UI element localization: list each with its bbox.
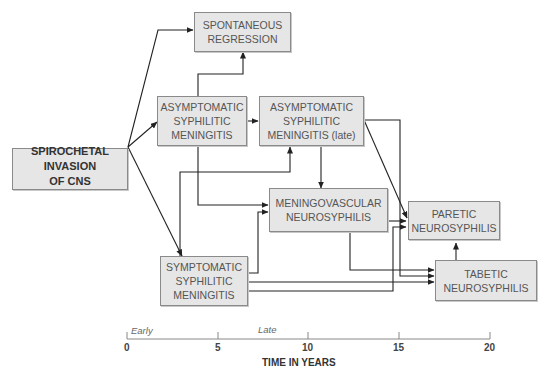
node-spirochetal-invasion: SPIROCHETAL INVASION OF CNS xyxy=(12,148,128,190)
node-paretic-neurosyphilis: PARETIC NEUROSYPHILIS xyxy=(408,201,500,240)
phase-late-label: Late xyxy=(258,324,277,335)
tick-label-5: 5 xyxy=(215,342,221,353)
node-meningovascular-neurosyphilis: MENINGOVASCULAR NEUROSYPHILIS xyxy=(269,188,388,232)
tick-label-10: 10 xyxy=(302,342,313,353)
tick-label-15: 15 xyxy=(393,342,404,353)
node-label: ASYMPTOMATIC SYPHILITIC MENINGITIS (late… xyxy=(267,100,355,142)
timeline-axis xyxy=(127,332,490,339)
node-label: TABETIC NEUROSYPHILIS xyxy=(443,267,528,295)
node-label: SYMPTOMATIC SYPHILITIC MENINGITIS xyxy=(166,260,242,302)
tick-label-20: 20 xyxy=(484,342,495,353)
node-asymptomatic-meningitis: ASYMPTOMATIC SYPHILITIC MENINGITIS xyxy=(157,96,247,146)
node-label: ASYMPTOMATIC SYPHILITIC MENINGITIS xyxy=(160,100,243,142)
node-symptomatic-meningitis: SYMPTOMATIC SYPHILITIC MENINGITIS xyxy=(160,256,248,306)
node-spontaneous-regression: SPONTANEOUS REGRESSION xyxy=(194,12,291,52)
phase-early-label: Early xyxy=(131,325,153,336)
tick-label-0: 0 xyxy=(124,342,130,353)
node-label: MENINGOVASCULAR NEUROSYPHILIS xyxy=(276,196,382,224)
node-tabetic-neurosyphilis: TABETIC NEUROSYPHILIS xyxy=(435,260,537,301)
node-label: SPIROCHETAL INVASION OF CNS xyxy=(31,144,109,189)
node-label: PARETIC NEUROSYPHILIS xyxy=(411,207,496,235)
node-label: SPONTANEOUS REGRESSION xyxy=(203,18,283,46)
axis-title: TIME IN YEARS xyxy=(262,357,336,368)
node-asymptomatic-meningitis-late: ASYMPTOMATIC SYPHILITIC MENINGITIS (late… xyxy=(259,96,364,146)
